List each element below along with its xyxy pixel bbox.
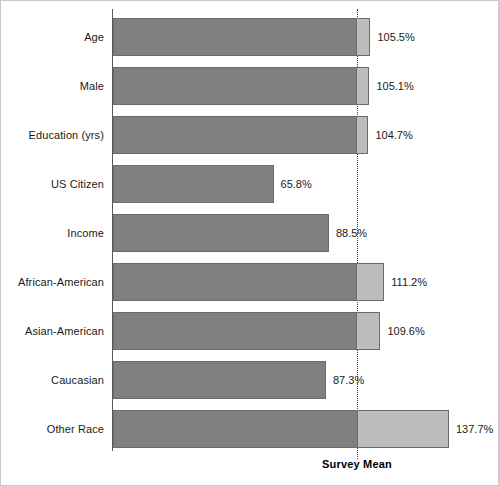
bar-segment-above-mean — [356, 264, 383, 300]
bar — [113, 116, 368, 154]
category-label: US Citizen — [0, 165, 104, 203]
bar — [113, 165, 274, 203]
category-label: Education (yrs) — [0, 116, 104, 154]
bar-value-label: 88.5% — [329, 214, 367, 252]
category-label: Caucasian — [0, 361, 104, 399]
bar-segment-above-mean — [357, 411, 448, 447]
bar-segment-above-mean — [356, 68, 368, 104]
plot-area: Age105.5%Male105.1%Education (yrs)104.7%… — [113, 9, 489, 451]
bar-segment-below-mean — [114, 313, 356, 349]
bar-segment-below-mean — [114, 264, 356, 300]
bar-value-label: 105.5% — [370, 18, 414, 56]
bar — [113, 263, 384, 301]
chart-page: Survey Mean Age105.5%Male105.1%Education… — [0, 0, 499, 486]
bar-segment-below-mean — [114, 362, 325, 398]
survey-mean-caption: Survey Mean — [322, 458, 392, 470]
bar-segment-below-mean — [114, 19, 356, 55]
bar — [113, 18, 370, 56]
bar-segment-above-mean — [356, 117, 367, 153]
category-label: Income — [0, 214, 104, 252]
bar — [113, 361, 326, 399]
bar-segment-below-mean — [114, 411, 357, 447]
bar-segment-below-mean — [114, 68, 356, 104]
bar-value-label: 109.6% — [380, 312, 424, 350]
category-label: African-American — [0, 263, 104, 301]
category-label: Age — [0, 18, 104, 56]
bar-segment-below-mean — [114, 215, 328, 251]
category-label: Other Race — [0, 410, 104, 448]
bar-value-label: 111.2% — [384, 263, 427, 301]
bar — [113, 312, 380, 350]
bar — [113, 67, 369, 105]
bar-value-label: 65.8% — [274, 165, 312, 203]
bar-value-label: 104.7% — [368, 116, 412, 154]
bar — [113, 214, 329, 252]
bar-value-label: 87.3% — [326, 361, 364, 399]
bar-segment-above-mean — [356, 313, 379, 349]
bar-segment-above-mean — [356, 19, 369, 55]
category-label: Male — [0, 67, 104, 105]
category-label: Asian-American — [0, 312, 104, 350]
bar-segment-below-mean — [114, 166, 273, 202]
bar — [113, 410, 449, 448]
bar-segment-below-mean — [114, 117, 356, 153]
bar-value-label: 105.1% — [369, 67, 413, 105]
bar-value-label: 137.7% — [449, 410, 493, 448]
